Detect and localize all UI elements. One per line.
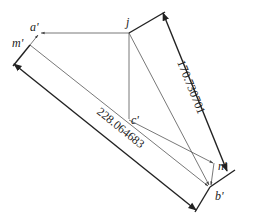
label-m: m': [12, 36, 24, 50]
line-m-a: [30, 35, 38, 45]
dimension-text-jb: 170.730701: [174, 58, 208, 116]
extension-b-bottom: [195, 187, 210, 212]
dimension-text-mb: 228.064683: [94, 104, 147, 151]
label-j: j: [124, 15, 130, 29]
label-a: a': [30, 20, 39, 34]
label-c: c': [131, 113, 139, 127]
line-n-b: [211, 163, 214, 185]
label-b: b': [215, 189, 224, 203]
label-n: n': [218, 159, 227, 173]
dimension-line-mb: [14, 64, 196, 210]
projection-diagram: 170.730701 228.064683 j a' m' c' n' b': [0, 0, 266, 220]
extension-j: [129, 12, 165, 33]
